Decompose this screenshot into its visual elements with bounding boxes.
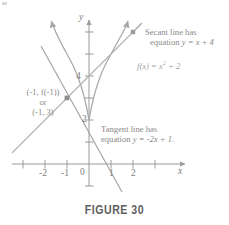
x-axis [12, 160, 185, 169]
secant-equation: y = x + 4 [182, 37, 214, 47]
secant-annotation-prefix: equation [150, 37, 182, 47]
y-axis-label: y [79, 12, 83, 23]
function-expr-tail: + 2 [166, 61, 180, 71]
tangency-point-line1: (-1, f(-1)) [11, 87, 75, 97]
x-tick-label-minus2: -2 [39, 168, 47, 179]
y-tick-label-two: 2 [82, 114, 87, 125]
y-tick-label-four: 4 [76, 71, 81, 82]
x-tick-label-two: 2 [131, 168, 136, 179]
point-secant-marker [131, 30, 135, 34]
figure-caption: FIGURE 30 [14, 203, 216, 217]
secant-annotation: Secant line has equation y = x + 4 [145, 27, 214, 47]
tangent-equation: y = -2x + 1. [133, 134, 174, 144]
tangent-annotation-line1: Tangent line has [101, 124, 174, 134]
tangent-annotation: Tangent line has equation y = -2x + 1. [101, 124, 174, 144]
tangency-point-line3: (-1, 3) [11, 107, 75, 117]
secant-annotation-line2: equation y = x + 4 [145, 37, 214, 47]
function-label: f(x) = x2 + 2 [137, 61, 180, 71]
function-equals: = [149, 61, 159, 71]
x-tick-label-zero: 0 [80, 167, 85, 178]
x-axis-label: x [178, 166, 182, 177]
x-tick-label-one: 1 [109, 168, 114, 179]
function-name: f(x) [137, 61, 149, 71]
tangency-point-line2: or [11, 97, 75, 107]
tangency-point-label: (-1, f(-1)) or (-1, 3) [11, 87, 75, 117]
figure-30-container: y x -2 -1 0 1 2 4 2 Secant line has equa… [0, 0, 229, 225]
secant-annotation-line1: Secant line has [145, 27, 214, 37]
tangent-annotation-prefix: equation [101, 134, 133, 144]
tangent-annotation-line2: equation y = -2x + 1. [101, 134, 174, 144]
x-tick-label-minus1: -1 [61, 168, 69, 179]
